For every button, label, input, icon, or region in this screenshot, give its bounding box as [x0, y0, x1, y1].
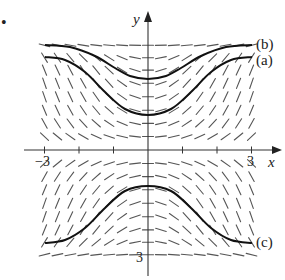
slope-segment — [130, 175, 141, 177]
slope-segment — [130, 122, 141, 124]
slope-segment — [105, 107, 113, 114]
slope-segment — [223, 212, 228, 222]
slope-segment — [104, 135, 114, 139]
slope-segment — [79, 134, 89, 140]
slope-segment — [68, 105, 73, 115]
slope-segment — [81, 199, 86, 209]
slope-segment — [117, 254, 128, 255]
slope-segment — [81, 79, 86, 89]
slope-segment — [92, 239, 101, 246]
slope-segment — [55, 65, 60, 75]
slope-segment — [41, 133, 49, 141]
slope-segment — [196, 173, 204, 180]
slope-segment — [42, 185, 46, 195]
slope-segment — [118, 80, 127, 86]
slope-segment — [183, 226, 191, 234]
slope-segment — [250, 198, 254, 208]
slope-segment — [210, 199, 215, 209]
slope-segment — [250, 212, 254, 222]
curve-label-a: (a) — [256, 52, 273, 69]
slope-segment — [156, 201, 166, 205]
slope-segment — [197, 199, 203, 208]
slope-segment — [210, 92, 215, 102]
slope-segment — [182, 162, 192, 166]
slope-segment — [208, 161, 218, 167]
slope-segment — [236, 172, 242, 181]
slope-segment — [196, 239, 205, 246]
slope-segment — [222, 119, 229, 128]
slope-segment — [43, 198, 47, 208]
slope-segment — [249, 119, 254, 129]
x-axis-label: x — [267, 154, 275, 170]
slope-segment — [168, 45, 179, 46]
x-axis-arrow-icon — [272, 146, 282, 154]
slope-segment — [222, 172, 229, 181]
slope-segment — [43, 78, 47, 88]
slope-segment — [78, 44, 89, 46]
slope-segment — [223, 65, 228, 75]
slope-segment — [237, 198, 241, 208]
slope-segment — [130, 57, 141, 59]
slope-segment — [181, 45, 192, 46]
slope-segment — [67, 119, 74, 128]
slope-segment — [117, 162, 128, 165]
slope-segment — [54, 172, 60, 181]
slope-segment — [68, 65, 73, 75]
slope-segment — [208, 134, 218, 140]
slope-segment — [65, 254, 76, 256]
slope-segment — [169, 214, 178, 220]
slope-segment — [105, 55, 114, 61]
slope-segment — [39, 253, 50, 256]
slope-segment — [130, 228, 141, 231]
slope-segment — [169, 94, 178, 100]
slope-segment — [104, 45, 115, 46]
slope-segment — [156, 163, 167, 164]
slope-segment — [93, 66, 100, 75]
slope-segment — [156, 69, 167, 72]
slope-segment — [117, 227, 126, 233]
y-tick-label-neg3: 3 — [136, 250, 143, 265]
curve-label-c: (c) — [256, 234, 273, 251]
slope-segment — [221, 160, 230, 166]
slope-segment — [80, 185, 86, 194]
slope-segment — [130, 163, 141, 164]
slope-segment — [118, 94, 127, 100]
x-tick-label-neg3: −3 — [35, 154, 50, 169]
slope-segment — [183, 79, 191, 87]
slope-segment — [55, 225, 60, 235]
slope-segment — [104, 254, 115, 255]
slope-segment — [182, 135, 192, 139]
slope-segment — [117, 135, 128, 138]
slope-field-diagram: • x −3 3 y 3 (b)(a)(c) — [0, 0, 285, 280]
slope-segment — [169, 135, 180, 138]
slope-segment — [43, 212, 47, 222]
slope-segment — [223, 78, 228, 88]
slope-segment — [79, 238, 87, 246]
slope-segment — [156, 228, 167, 231]
slope-segment — [92, 120, 100, 127]
slope-segment — [80, 106, 86, 115]
slope-segment — [196, 106, 203, 115]
slope-segment — [55, 212, 59, 222]
slope-segment — [195, 161, 205, 166]
slope-segment — [130, 69, 141, 72]
slope-segment — [194, 45, 205, 46]
slope-segment — [130, 95, 140, 99]
slope-segment — [181, 254, 192, 255]
slope-segment — [234, 133, 243, 140]
slope-segment — [169, 121, 179, 125]
slope-segment — [79, 161, 89, 167]
slope-segment — [93, 199, 99, 208]
slope-segment — [80, 173, 87, 181]
slope-segment — [248, 133, 256, 141]
slope-segment — [169, 227, 178, 233]
slope-segment — [117, 174, 127, 178]
slope-segment — [249, 185, 253, 195]
x-axis: x −3 3 — [24, 146, 282, 170]
slope-segment — [196, 120, 204, 127]
problem-bullet: • — [1, 14, 7, 31]
slope-segment — [91, 134, 101, 139]
slope-segment — [93, 92, 99, 101]
slope-segment — [207, 254, 218, 256]
slope-segment — [169, 56, 179, 60]
